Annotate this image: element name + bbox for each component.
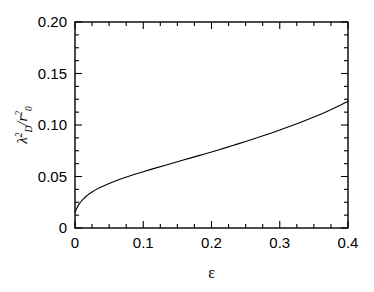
chart-plot-area: 00.10.20.30.4 00.050.100.150.20 ε λ2D/r2…: [0, 0, 374, 292]
x-tick-label: 0: [71, 234, 79, 251]
y-axis-title-lambda-subscript: D: [24, 126, 34, 134]
y-tick-label: 0.15: [38, 65, 67, 82]
x-tick-label: 0.2: [201, 234, 222, 251]
chart-background: [0, 0, 374, 292]
x-axis-title: ε: [208, 264, 215, 281]
y-tick-label: 0.20: [38, 13, 67, 30]
y-tick-label: 0.10: [38, 116, 67, 133]
chart-figure: 00.10.20.30.4 00.050.100.150.20 ε λ2D/r2…: [0, 0, 374, 292]
y-axis-title-r-subscript: 0: [24, 106, 34, 111]
y-tick-label: 0.05: [38, 168, 67, 185]
x-tick-label: 0.1: [133, 234, 154, 251]
x-tick-label: 0.3: [269, 234, 290, 251]
y-tick-label: 0: [59, 219, 67, 236]
y-axis-title-r-exponent: 2: [14, 111, 24, 116]
y-axis-title-lambda-exponent: 2: [14, 132, 24, 137]
x-tick-label: 0.4: [338, 234, 359, 251]
